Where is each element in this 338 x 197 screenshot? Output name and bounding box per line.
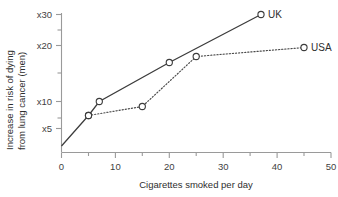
x-tick-label: 50: [326, 161, 337, 172]
x-tick-label: 40: [272, 161, 283, 172]
y-axis-ticks: x30 x20 x10 x5: [37, 9, 62, 134]
y-tick-label: x10: [37, 96, 52, 107]
x-tick-label: 10: [110, 161, 121, 172]
y-axis-label-line2: from lung cancer (men): [16, 52, 27, 150]
x-tick-label: 30: [218, 161, 229, 172]
line-chart: Increase in risk of dying from lung canc…: [0, 0, 338, 197]
x-axis-ticks: 0 10 20 30 40 50: [59, 153, 336, 173]
series-label-uk: UK: [268, 9, 282, 20]
x-tick-label: 0: [59, 161, 64, 172]
series-line-uk: [62, 15, 262, 147]
y-axis-label-line1: Increase in risk of dying: [4, 50, 15, 150]
series-label-usa: USA: [311, 42, 332, 53]
x-axis-label: Cigarettes smoked per day: [139, 179, 253, 190]
y-tick-label: x5: [42, 123, 52, 134]
series-markers-usa: [85, 44, 307, 118]
y-tick-label: x20: [37, 40, 52, 51]
chart-container: Increase in risk of dying from lung canc…: [0, 0, 338, 197]
y-tick-label: x30: [37, 9, 52, 20]
x-tick-label: 20: [164, 161, 175, 172]
